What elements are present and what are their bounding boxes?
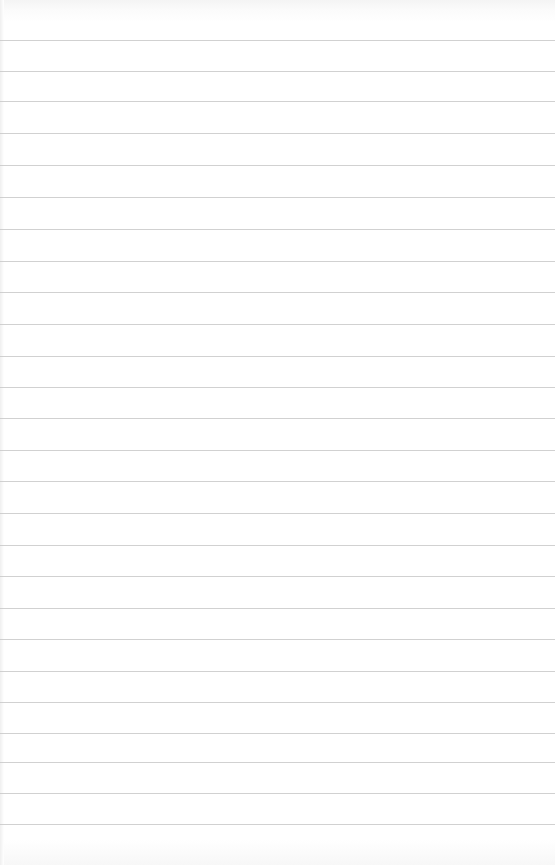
- ruled-line: [0, 639, 555, 640]
- ruled-line: [0, 324, 555, 325]
- ruled-line: [0, 513, 555, 514]
- ruled-line: [0, 229, 555, 230]
- ruled-line: [0, 165, 555, 166]
- ruled-line: [0, 702, 555, 703]
- ruled-line: [0, 762, 555, 763]
- lined-paper-sheet: [0, 0, 555, 865]
- paper-left-edge-shadow: [0, 0, 4, 865]
- ruled-line: [0, 608, 555, 609]
- ruled-line: [0, 292, 555, 293]
- ruled-line: [0, 356, 555, 357]
- ruled-line: [0, 733, 555, 734]
- ruled-line: [0, 133, 555, 134]
- ruled-line: [0, 261, 555, 262]
- ruled-line: [0, 545, 555, 546]
- ruled-line: [0, 101, 555, 102]
- ruled-line: [0, 197, 555, 198]
- ruled-line: [0, 481, 555, 482]
- ruled-line: [0, 387, 555, 388]
- ruled-line: [0, 40, 555, 41]
- ruled-line: [0, 418, 555, 419]
- ruled-line: [0, 71, 555, 72]
- ruled-line: [0, 824, 555, 825]
- ruled-line: [0, 793, 555, 794]
- ruled-line: [0, 576, 555, 577]
- ruled-line: [0, 450, 555, 451]
- ruled-line: [0, 671, 555, 672]
